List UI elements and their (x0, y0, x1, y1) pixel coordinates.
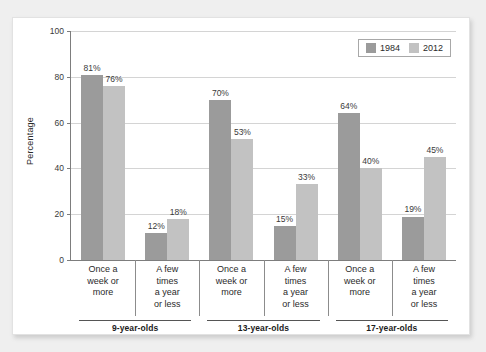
gridline (71, 168, 456, 169)
category-label: Once a week or more (199, 264, 263, 299)
legend-swatch-1984 (366, 43, 376, 53)
bar-value-label: 76% (106, 74, 123, 84)
group-rule (336, 320, 448, 321)
y-axis-line (70, 31, 71, 260)
y-tick-mark (67, 260, 71, 261)
group-label: 13-year-olds (199, 323, 327, 333)
bar (209, 100, 231, 260)
bar (145, 233, 167, 260)
category-label: Once a week or more (71, 264, 135, 299)
bar-value-label: 19% (404, 204, 421, 214)
group-label: 17-year-olds (328, 323, 456, 333)
bar (296, 184, 318, 260)
bar-value-label: 40% (362, 156, 379, 166)
bar-value-label: 18% (170, 207, 187, 217)
legend-label-2012: 2012 (423, 43, 443, 53)
bar-value-label: 15% (276, 214, 293, 224)
bar-value-label: 12% (148, 221, 165, 231)
gridline (71, 31, 456, 32)
legend-swatch-2012 (409, 43, 419, 53)
group-rule (207, 320, 319, 321)
bar (402, 217, 424, 261)
gridline (71, 77, 456, 78)
bar (424, 157, 446, 260)
bar-value-label: 70% (212, 88, 229, 98)
y-tick-mark (67, 31, 71, 32)
y-tick-label: 80 (55, 72, 64, 82)
plot-area: 020406080100 81%76%12%18%70%53%15%33%64%… (71, 31, 456, 260)
category-label: A few times a year or less (135, 264, 199, 310)
group-label: 9-year-olds (71, 323, 199, 333)
bar (81, 75, 103, 260)
gridline (71, 214, 456, 215)
bar (274, 226, 296, 260)
bar (231, 139, 253, 260)
bar-value-label: 33% (298, 172, 315, 182)
y-tick-mark (67, 214, 71, 215)
bar (338, 113, 360, 260)
bar (103, 86, 125, 260)
bar-value-label: 45% (426, 145, 443, 155)
chart-panel: Percentage 020406080100 81%76%12%18%70%5… (12, 17, 470, 335)
y-tick-label: 100 (50, 26, 64, 36)
gridline (71, 123, 456, 124)
bar-value-label: 64% (340, 101, 357, 111)
category-label: Once a week or more (328, 264, 392, 299)
chart-legend: 1984 2012 (358, 39, 451, 57)
y-tick-label: 60 (55, 118, 64, 128)
legend-entry-2012: 2012 (409, 43, 443, 53)
y-tick-label: 20 (55, 209, 64, 219)
category-label: A few times a year or less (392, 264, 456, 310)
bar (360, 168, 382, 260)
legend-entry-1984: 1984 (366, 43, 400, 53)
y-tick-label: 0 (59, 255, 64, 265)
bar-value-label: 53% (234, 127, 251, 137)
category-label: A few times a year or less (264, 264, 328, 310)
y-axis-title: Percentage (25, 86, 35, 196)
y-tick-label: 40 (55, 163, 64, 173)
bar (167, 219, 189, 260)
group-rule (79, 320, 191, 321)
legend-label-1984: 1984 (380, 43, 400, 53)
y-tick-mark (67, 168, 71, 169)
y-tick-mark (67, 77, 71, 78)
y-tick-mark (67, 123, 71, 124)
bar-value-label: 81% (84, 63, 101, 73)
